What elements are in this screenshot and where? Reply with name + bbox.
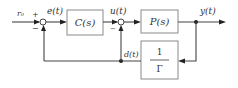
- sum1-minus-sign: −: [32, 24, 39, 33]
- feedback-denominator: Γ: [156, 64, 162, 74]
- feedback-arrow-icon: [178, 59, 185, 64]
- block-diagram: r₀ + − e(t) C(s) u(t) − P(s) y(t) 1 Γ d(…: [0, 0, 238, 88]
- output-arrow-icon: [219, 20, 226, 25]
- sum1-plus-sign: +: [32, 10, 39, 19]
- feedback-wire: [183, 22, 196, 61]
- sum2-minus-sign: −: [110, 25, 116, 33]
- sum1-feedback-arrow-icon: [41, 25, 46, 31]
- disturbance-label: d(t): [124, 50, 139, 59]
- error-arrow-icon: [60, 20, 67, 25]
- plant-label: P(s): [149, 16, 170, 27]
- control-arrow-icon: [112, 20, 118, 25]
- feedback-numerator: 1: [157, 47, 163, 57]
- reference-label: r₀: [17, 9, 25, 18]
- sum2-feedback-arrow-icon: [119, 25, 124, 31]
- summing-junction-2: [118, 19, 124, 25]
- summing-junction-1: [40, 19, 46, 25]
- control-label: u(t): [110, 6, 127, 16]
- controller-label: C(s): [75, 17, 96, 28]
- error-label: e(t): [47, 6, 63, 16]
- output-label: y(t): [199, 6, 216, 16]
- plant-input-arrow-icon: [134, 20, 141, 25]
